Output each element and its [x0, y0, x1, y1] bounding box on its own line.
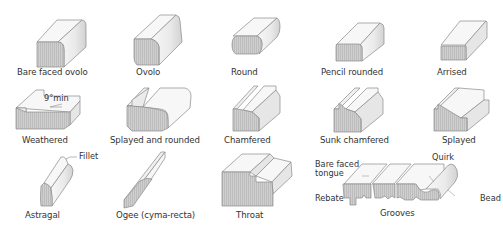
label-splayed-and-rounded: Splayed and rounded [110, 135, 200, 145]
bare-faced-ovolo-shape [37, 20, 86, 67]
label-splayed: Splayed [442, 135, 476, 145]
grooves-shape [343, 164, 458, 205]
throat-shape [222, 154, 292, 206]
callout-rebate: Rebate [315, 194, 344, 203]
annotation-weathered-angle: 9°min [44, 94, 69, 103]
label-pencil-rounded: Pencil rounded [321, 67, 383, 77]
label-astragal: Astragal [25, 210, 60, 220]
label-ogee: Ogee (cyma-recta) [116, 210, 195, 220]
callout-bare-faced-tongue-line2: tongue [315, 169, 344, 178]
label-ovolo: Ovolo [136, 67, 160, 77]
ovolo-shape [134, 15, 182, 65]
ogee-shape [124, 152, 165, 208]
label-throat: Throat [236, 210, 263, 220]
astragal-shape [41, 157, 78, 206]
label-chamfered: Chamfered [224, 135, 271, 145]
label-arrised: Arrised [437, 67, 467, 77]
label-round: Round [231, 67, 258, 77]
mouldings-diagram: Bare faced ovolo Ovolo Round Pencil roun… [0, 0, 503, 228]
callout-fillet: Fillet [79, 152, 98, 161]
label-sunk-chamfered: Sunk chamfered [320, 135, 389, 145]
callout-bead: Bead [480, 194, 501, 203]
label-weathered: Weathered [22, 135, 68, 145]
chamfered-shape [233, 86, 280, 131]
label-grooves: Grooves [380, 208, 415, 218]
pencil-rounded-shape [336, 23, 384, 61]
splayed-shape [434, 88, 489, 131]
callout-quirk: Quirk [432, 153, 454, 162]
arrised-shape [441, 21, 487, 60]
sunk-chamfered-shape [334, 88, 383, 132]
label-bare-faced-ovolo: Bare faced ovolo [17, 67, 88, 77]
splayed-and-rounded-shape [127, 88, 191, 131]
round-shape [232, 18, 280, 54]
